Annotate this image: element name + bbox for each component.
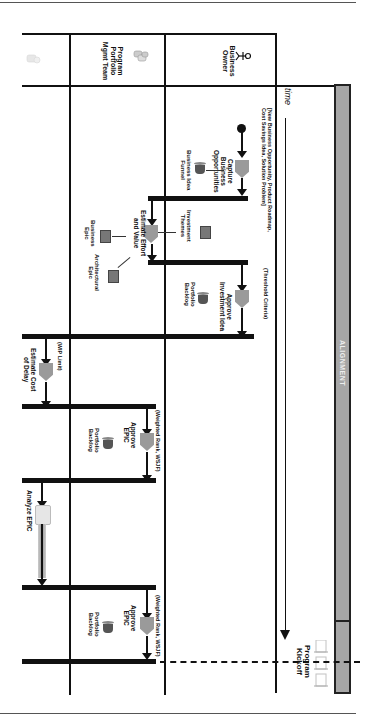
lane-label-business-owner: Business Owner [221, 41, 236, 81]
weighted-note-1: (Weighted Rank, WSJF) [154, 410, 160, 472]
artifact-label: Business Idea Funnel [180, 150, 192, 190]
document-icon [108, 270, 119, 283]
artifact-architectural-epic: Architectural Epic [87, 254, 100, 291]
bucket-icon [195, 165, 205, 174]
task-estimate-cod-label: Estimate Cost of Delay [22, 348, 36, 391]
flow-arrow [41, 524, 43, 580]
flow-arrow [146, 408, 148, 430]
lane-label-text: Program Portfolio Mgmt Team [102, 42, 124, 80]
flow-arrow [241, 264, 243, 286]
artifact-label: Business Epic [84, 220, 96, 247]
kickoff-dashed-line [160, 661, 360, 663]
trigger-note: [New Business Opportunity, Product Roadm… [260, 108, 272, 232]
task-estimate-label: Estimate Effort and Value [132, 210, 146, 256]
sync-bar [22, 659, 156, 664]
kickoff-docs-icon [314, 640, 328, 688]
artifact-portfolio-backlog-3: Portfolio Backlog [87, 612, 100, 637]
alignment-phase-bar-end [334, 620, 351, 694]
artifact-link [206, 170, 224, 171]
task-label: Estimate Effort and Value [133, 210, 147, 256]
sync-bar [22, 585, 156, 590]
task-approve-epic-1[interactable] [140, 433, 154, 451]
artifact-label: Portfolio Backlog [184, 282, 196, 307]
task-approve-epic-2[interactable] [140, 617, 154, 635]
artifact-business-epic: Business Epic [83, 220, 96, 247]
lane-border-right [275, 33, 277, 693]
task-approve-epic-2-label: Approve EPIC [122, 605, 136, 631]
flow-arrow [45, 338, 47, 360]
artifact-investment-themes: Investment Themes [179, 210, 192, 242]
artifact-business-idea-funnel: Business Idea Funnel [179, 150, 192, 190]
artifact-link [118, 257, 131, 268]
sync-bar [22, 334, 254, 339]
bucket-icon [198, 295, 208, 304]
time-axis-line [285, 118, 286, 638]
artifact-label: Portfolio Backlog [88, 612, 100, 637]
task-capture[interactable] [235, 160, 249, 178]
faded-team-icon [26, 52, 42, 64]
artifact-label: Investment Themes [180, 210, 192, 242]
page-bottom-rule [0, 713, 356, 714]
task-label: Approve EPIC [123, 422, 137, 448]
artifact-portfolio-backlog-1: Portfolio Backlog [183, 282, 196, 307]
flow-arrow [146, 590, 148, 614]
artifact-label: Portfolio Backlog [88, 428, 100, 453]
team-icon [132, 50, 150, 64]
actor-icon [235, 48, 251, 64]
task-approve-epic-1-label: Approve EPIC [122, 422, 136, 448]
task-label: Estimate Cost of Delay [23, 348, 37, 391]
task-estimate-cost-of-delay[interactable] [39, 363, 53, 381]
artifact-link [112, 236, 126, 237]
wip-note: (WIP Limit) [56, 342, 62, 371]
task-label: Capture Business Opportunities [213, 150, 234, 193]
bucket-icon [103, 440, 113, 449]
flow-arrow [241, 178, 243, 190]
bucket-icon [103, 624, 113, 633]
page-top-rule [0, 2, 356, 3]
sync-bar [148, 196, 248, 201]
task-approve-idea[interactable] [235, 290, 249, 308]
flow-arrow [41, 482, 43, 502]
flow-arrow [151, 244, 153, 256]
alignment-label: ALIGNMENT [339, 340, 346, 386]
lane-header-top [22, 33, 276, 35]
lane-label-program-portfolio: Program Portfolio Mgmt Team [102, 41, 124, 81]
task-approve-idea-label: Approve Investment Idea [218, 282, 232, 331]
weighted-note-2: (Weighted Rank, WSJF) [154, 595, 160, 657]
task-label: Approve EPIC [123, 605, 137, 631]
artifact-label: Architectural Epic [88, 254, 100, 291]
sync-bar [148, 260, 248, 265]
analyze-epic-subprocess-icon[interactable] [35, 505, 51, 525]
document-icon [200, 226, 211, 239]
flow-arrow [151, 200, 153, 220]
flow-arrow [146, 636, 148, 654]
artifact-portfolio-backlog-2: Portfolio Backlog [87, 428, 100, 453]
task-label: Approve Investment Idea [219, 282, 233, 331]
threshold-note: (Threshold Criteria) [262, 268, 268, 319]
task-capture-label: Capture Business Opportunities [213, 150, 233, 193]
lane-divider-2 [69, 33, 71, 695]
flow-arrow [45, 382, 47, 402]
lane-divider-1 [164, 33, 166, 695]
lane-label-text: Business Owner [222, 45, 236, 76]
document-icon [100, 230, 111, 243]
artifact-link [158, 232, 176, 233]
task-analyze-epic-label: Analyze EPIC [25, 490, 32, 532]
flow-arrow [241, 132, 243, 152]
time-label: time [283, 88, 292, 105]
trigger-note-text: [New Business Opportunity, Product Roadm… [261, 108, 273, 232]
sync-bar [22, 404, 156, 409]
flow-arrow [146, 452, 148, 476]
flow-arrow [241, 308, 243, 332]
time-arrow-head [280, 630, 290, 640]
